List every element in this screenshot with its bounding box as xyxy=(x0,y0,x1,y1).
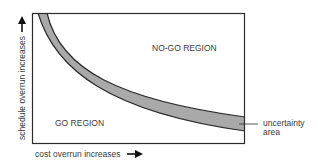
x-axis-arrow-icon xyxy=(127,150,143,158)
diagram-canvas xyxy=(0,0,318,166)
y-axis-label: schedule overrun increases xyxy=(18,36,27,140)
y-axis-arrow-icon xyxy=(18,16,26,32)
x-axis-label: cost overrun increases xyxy=(35,150,121,159)
uncertainty-band xyxy=(38,13,245,131)
go-region-label: GO REGION xyxy=(55,119,104,128)
no-go-region-label: NO-GO REGION xyxy=(152,44,217,53)
uncertainty-label-line2: area xyxy=(263,128,280,137)
